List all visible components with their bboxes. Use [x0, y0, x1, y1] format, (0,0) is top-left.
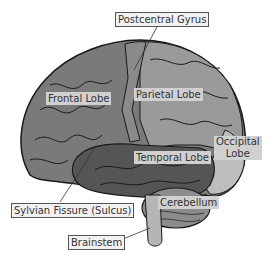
label-frontal-lobe: Frontal Lobe	[46, 92, 111, 105]
label-temporal-lobe: Temporal Lobe	[134, 151, 211, 164]
label-cerebellum: Cerebellum	[158, 196, 219, 209]
label-sylvian-fissure: Sylvian Fissure (Sulcus)	[11, 203, 134, 218]
label-occipital-line1: Occipital	[216, 136, 260, 148]
label-occipital-lobe: Occipital Lobe	[214, 136, 262, 160]
label-occipital-line2: Lobe	[216, 148, 260, 160]
label-parietal-lobe: Parietal Lobe	[134, 88, 203, 101]
label-postcentral-gyrus: Postcentral Gyrus	[115, 12, 209, 27]
brain-illustration	[0, 0, 266, 261]
label-brainstem: Brainstem	[68, 235, 125, 250]
